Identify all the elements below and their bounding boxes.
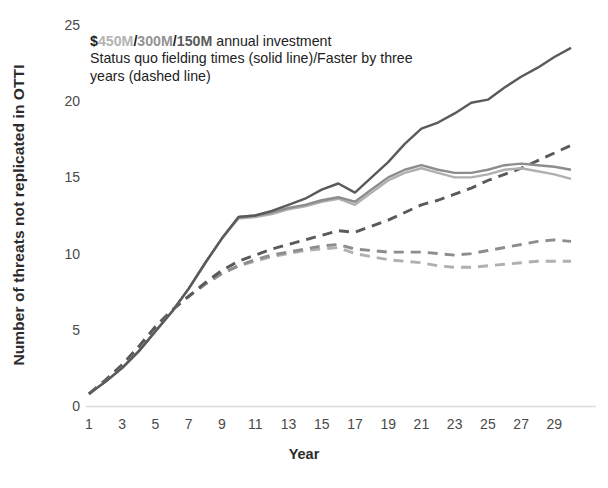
- x-tick-label: 29: [547, 416, 563, 432]
- annotation-suffix: annual investment: [212, 33, 331, 49]
- x-axis-label-text: Year: [289, 446, 320, 462]
- x-tick-label: 23: [447, 416, 463, 432]
- x-tick-label: 13: [281, 416, 297, 432]
- x-axis-label: Year: [0, 446, 608, 462]
- x-tick-label: 19: [380, 416, 396, 432]
- x-tick-label: 27: [513, 416, 529, 432]
- series-line-300M-solid: [89, 164, 571, 394]
- x-tick-label: 5: [152, 416, 160, 432]
- x-tick-label: 25: [480, 416, 496, 432]
- annotation-line-1: $450M/300M/150M annual investment: [90, 33, 490, 50]
- series-line-150M-dashed: [89, 145, 571, 393]
- x-tick-label: 17: [347, 416, 363, 432]
- y-axis-label: Number of threats not replicated in OTTI: [6, 0, 32, 430]
- y-tick-label: 25: [64, 17, 80, 33]
- y-axis-label-text: Number of threats not replicated in OTTI: [10, 64, 28, 365]
- x-tick-label: 9: [218, 416, 226, 432]
- y-tick-label: 20: [64, 93, 80, 109]
- x-tick-label: 11: [248, 416, 263, 432]
- y-tick-label: 15: [64, 169, 80, 185]
- annotation-amount-450: 450M: [98, 33, 134, 49]
- annotation-amount-300: 300M: [137, 33, 173, 49]
- data-series-group: [89, 48, 571, 394]
- x-tick-label: 21: [414, 416, 430, 432]
- y-tick-label: 0: [72, 398, 80, 414]
- annotation-dollar-sign: $: [90, 33, 98, 49]
- x-axis-ticks: 1357911131517192123252729: [85, 416, 562, 432]
- x-tick-label: 7: [185, 416, 193, 432]
- annotation-line-3: years (dashed line): [90, 68, 490, 85]
- series-line-150M-solid: [89, 48, 571, 394]
- annotation-line-2: Status quo fielding times (solid line)/F…: [90, 50, 490, 67]
- chart-container: 0510152025 1357911131517192123252729 Num…: [0, 0, 608, 488]
- x-tick-label: 1: [85, 416, 93, 432]
- annotation-amount-150: 150M: [177, 33, 213, 49]
- series-line-450M-solid: [89, 168, 571, 394]
- y-tick-label: 5: [72, 322, 80, 338]
- series-line-300M-dashed: [89, 240, 571, 394]
- y-tick-label: 10: [64, 246, 80, 262]
- chart-annotation: $450M/300M/150M annual investment Status…: [90, 33, 490, 85]
- x-tick-label: 15: [314, 416, 330, 432]
- x-tick-label: 3: [118, 416, 126, 432]
- y-axis-ticks: 0510152025: [64, 17, 80, 414]
